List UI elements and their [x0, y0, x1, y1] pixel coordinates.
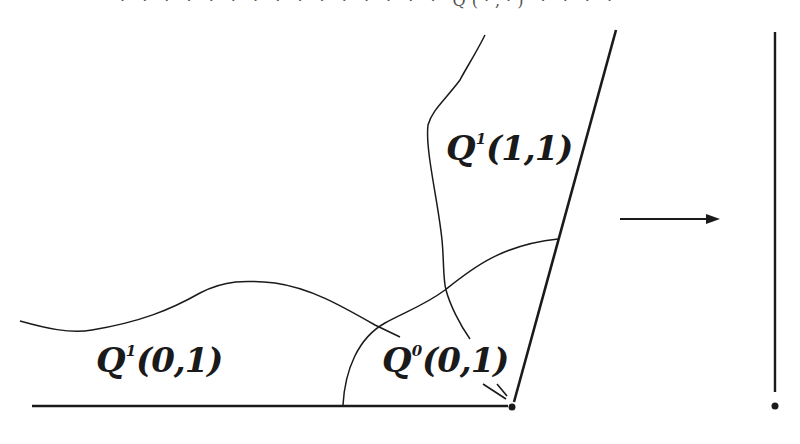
wavy-curve [20, 281, 400, 337]
label-args: (0,1) [136, 340, 222, 380]
label-q0-01: Q0(0,1) [382, 340, 508, 380]
corner-point [509, 404, 516, 411]
arrow-head-icon [706, 214, 720, 224]
label-q1-11: Q1(1,1) [446, 128, 572, 168]
target-endpoint [772, 403, 779, 410]
label-superscript: 1 [126, 342, 135, 360]
slanted-boundary-line [514, 30, 616, 402]
arc-curve [343, 239, 558, 405]
label-args: (0,1) [422, 340, 508, 380]
label-base: Q [96, 340, 125, 380]
label-base: Q [446, 128, 475, 168]
label-args: (1,1) [486, 128, 572, 168]
label-base: Q [382, 340, 411, 380]
label-superscript: 0 [412, 342, 421, 360]
label-q1-01: Q1(0,1) [96, 340, 222, 380]
vertical-curve [428, 35, 485, 339]
label-superscript: 1 [476, 130, 485, 148]
